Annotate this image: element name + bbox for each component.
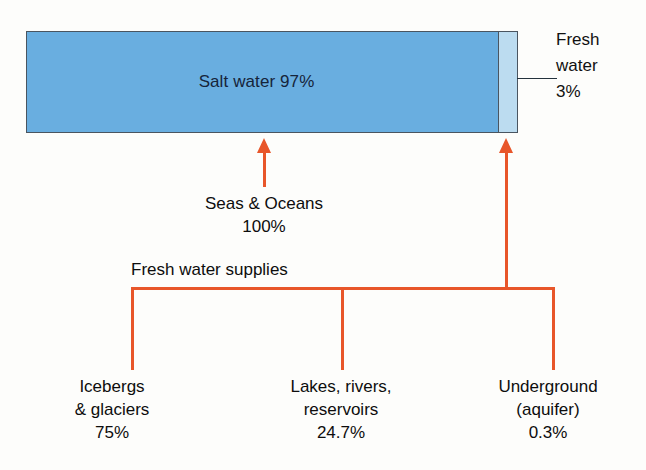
fresh-water-callout-line2: water [556, 53, 599, 79]
seas-oceans-arrowhead-icon [257, 138, 271, 153]
seas-oceans-label-line1: Seas & Oceans [205, 192, 323, 215]
fresh-water-callout-line3: 3% [556, 79, 599, 105]
branch-label-lakes-value: 24.7% [290, 421, 391, 444]
water-distribution-bar: Salt water 97% [26, 31, 518, 133]
fresh-water-callout: Fresh water 3% [556, 27, 599, 105]
branch-leg-lakes [341, 287, 344, 370]
seas-oceans-arrow-stem [263, 152, 266, 187]
diagram-canvas: Salt water 97% Fresh water 3% Seas & Oce… [0, 0, 646, 470]
branch-label-underground-value: 0.3% [498, 421, 597, 444]
branch-leg-icebergs [131, 287, 134, 370]
branch-label-underground: Underground (aquifer) 0.3% [498, 375, 597, 444]
fresh-water-leader-line [517, 78, 557, 79]
branch-leg-underground [552, 287, 555, 370]
branch-label-icebergs-line2: & glaciers [75, 398, 150, 421]
bar-segment-salt-water: Salt water 97% [27, 32, 499, 132]
branch-label-icebergs-line1: Icebergs [75, 375, 150, 398]
salt-water-label: Salt water 97% [199, 72, 315, 92]
branch-label-underground-line2: (aquifer) [498, 398, 597, 421]
branch-label-icebergs: Icebergs & glaciers 75% [75, 375, 150, 444]
bar-segment-fresh-water [499, 32, 517, 132]
fresh-supplies-riser-stem [505, 152, 508, 289]
branch-label-underground-line1: Underground [498, 375, 597, 398]
fresh-supplies-arrowhead-icon [499, 138, 513, 153]
branch-label-lakes-line2: reservoirs [290, 398, 391, 421]
branch-label-lakes: Lakes, rivers, reservoirs 24.7% [290, 375, 391, 444]
branch-label-lakes-line1: Lakes, rivers, [290, 375, 391, 398]
seas-oceans-label: Seas & Oceans 100% [205, 192, 323, 238]
fresh-water-supplies-heading: Fresh water supplies [131, 258, 288, 281]
seas-oceans-label-line2: 100% [205, 215, 323, 238]
branch-label-icebergs-value: 75% [75, 421, 150, 444]
fresh-water-callout-line1: Fresh [556, 27, 599, 53]
